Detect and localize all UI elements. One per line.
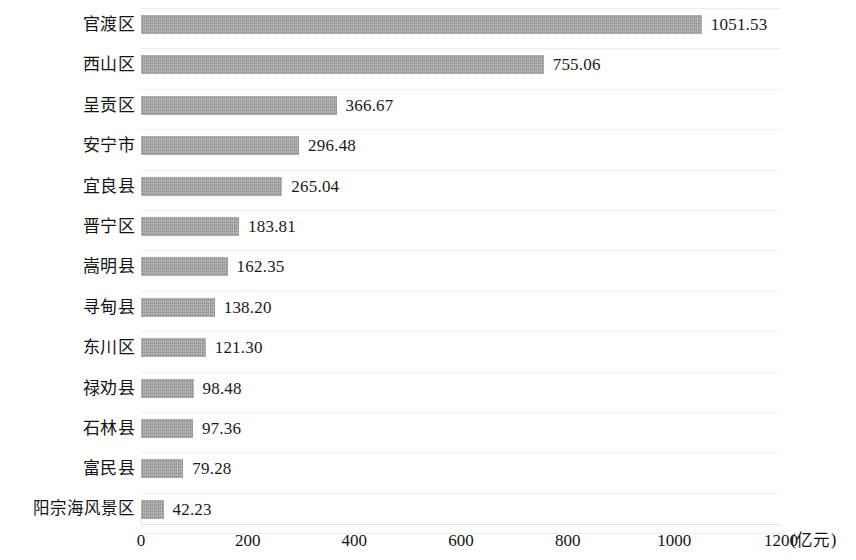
bar	[141, 55, 544, 74]
category-label: 宜良县	[0, 176, 135, 196]
bar	[141, 15, 702, 34]
bar	[141, 217, 239, 236]
bar	[141, 379, 194, 398]
bar	[141, 177, 282, 196]
x-tick-label: 0	[137, 531, 146, 551]
x-tick-label: 600	[448, 531, 474, 551]
value-label: 265.04	[291, 177, 339, 196]
bar-row: 西山区755.06	[0, 55, 856, 95]
category-label: 东川区	[0, 337, 135, 357]
bar-row: 阳宗海风景区42.23	[0, 500, 856, 540]
value-label: 79.28	[192, 459, 231, 478]
bar-row: 官渡区1051.53	[0, 15, 856, 55]
bar	[141, 338, 206, 357]
bar-row: 禄劝县98.48	[0, 379, 856, 419]
value-label: 183.81	[248, 217, 296, 236]
x-tick-label: 200	[235, 531, 261, 551]
bar-row: 安宁市296.48	[0, 136, 856, 176]
category-label: 西山区	[0, 54, 135, 74]
value-label: 42.23	[173, 500, 212, 519]
bar	[141, 96, 337, 115]
value-label: 296.48	[308, 136, 356, 155]
category-label: 安宁市	[0, 135, 135, 155]
bar-row: 嵩明县162.35	[0, 257, 856, 297]
bar-chart: 官渡区1051.53西山区755.06呈贡区366.67安宁市296.48宜良县…	[0, 0, 856, 560]
category-label: 石林县	[0, 418, 135, 438]
bar	[141, 419, 193, 438]
value-label: 162.35	[237, 257, 285, 276]
category-label: 官渡区	[0, 14, 135, 34]
bar-row: 石林县97.36	[0, 419, 856, 459]
category-label: 嵩明县	[0, 256, 135, 276]
value-label: 98.48	[203, 379, 242, 398]
category-label: 阳宗海风景区	[0, 499, 135, 519]
bar-row: 晋宁区183.81	[0, 217, 856, 257]
bar-row: 寻甸县138.20	[0, 298, 856, 338]
category-label: 富民县	[0, 458, 135, 478]
bar-row: 宜良县265.04	[0, 177, 856, 217]
bar-row: 呈贡区366.67	[0, 96, 856, 136]
category-label: 禄劝县	[0, 378, 135, 398]
category-label: 寻甸县	[0, 297, 135, 317]
value-label: 97.36	[202, 419, 241, 438]
bar	[141, 500, 164, 519]
bar	[141, 257, 228, 276]
category-label: 晋宁区	[0, 216, 135, 236]
bar	[141, 298, 215, 317]
x-tick-label: 400	[342, 531, 368, 551]
x-tick-label: 1000	[657, 531, 691, 551]
gridline	[141, 8, 781, 9]
x-tick-label: 800	[555, 531, 581, 551]
value-label: 138.20	[224, 298, 272, 317]
bar	[141, 136, 299, 155]
x-axis-unit-label: (亿元)	[790, 530, 837, 551]
bar-row: 富民县79.28	[0, 459, 856, 499]
category-label: 呈贡区	[0, 95, 135, 115]
value-label: 755.06	[553, 55, 601, 74]
value-label: 1051.53	[711, 15, 768, 34]
bar-row: 东川区121.30	[0, 338, 856, 378]
bar	[141, 459, 183, 478]
value-label: 121.30	[215, 338, 263, 357]
value-label: 366.67	[346, 96, 394, 115]
